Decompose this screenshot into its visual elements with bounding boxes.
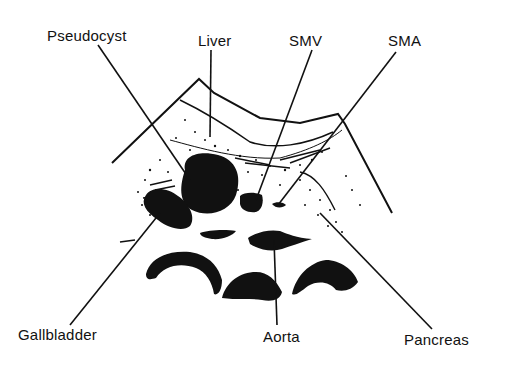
label-aorta: Aorta <box>263 329 300 344</box>
label-pseudocyst: Pseudocyst <box>47 28 127 43</box>
ivc-shape <box>200 230 236 239</box>
aorta-shape <box>248 230 312 250</box>
liver-boundary <box>180 100 333 146</box>
ultrasound-diagram <box>0 0 514 375</box>
leader-pseudocyst <box>98 45 190 180</box>
label-pancreas: Pancreas <box>404 332 469 347</box>
label-smv: SMV <box>289 33 322 48</box>
label-liver: Liver <box>198 33 232 48</box>
gallbladder-tick <box>120 240 135 242</box>
leader-smv <box>256 50 312 200</box>
leader-liver <box>210 50 211 137</box>
smv-shape <box>240 193 263 212</box>
label-sma: SMA <box>388 33 421 48</box>
pseudocyst-shape <box>181 153 238 213</box>
label-gallbladder: Gallbladder <box>18 327 97 342</box>
leader-sma <box>278 52 396 205</box>
posterior-echoes <box>146 252 358 301</box>
leader-gallbladder <box>70 213 160 325</box>
